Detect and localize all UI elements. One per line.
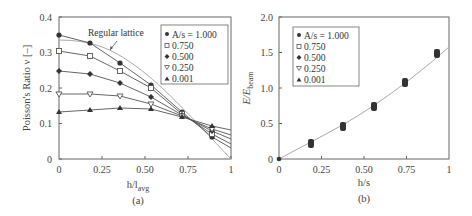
legend-label: 0.500 [172, 52, 194, 62]
legend-circle-icon [165, 32, 169, 36]
y-tick-label: 0.4 [40, 12, 53, 23]
y-tick-label: 0 [47, 154, 52, 165]
x-tick-label: 0 [277, 164, 282, 175]
panel-b: 0 0.5 1.0 1.5 2.0 0 0.25 0.50 0.75 1 E/E… [241, 12, 452, 206]
y-tick-label: 1.5 [261, 47, 274, 58]
y-axis-label-b: E/Ebeam [241, 71, 255, 106]
legend-square-icon [297, 45, 301, 49]
legend-label: 0.750 [172, 41, 194, 51]
caption-a: (a) [132, 195, 144, 207]
legend-label: 0.500 [304, 53, 326, 63]
marker-cluster [277, 157, 282, 162]
series-line-0001 [59, 108, 231, 130]
y-tick-label: 0.1 [40, 118, 53, 129]
legend-a: A/s = 1.000 0.750 0.500 0.250 0.001 [161, 25, 228, 84]
y-tick-label: 2.0 [261, 12, 274, 23]
x-axis-label-b: h/s [358, 177, 370, 188]
legend-label: 0.001 [304, 75, 326, 85]
markers-0250 [56, 92, 215, 132]
x-tick-label: 0.50 [355, 164, 373, 175]
x-tick-label: 1 [447, 164, 452, 175]
regular-lattice-annotation: Regular lattice [88, 28, 144, 38]
y-tick-label: 0 [268, 154, 273, 165]
legend-square-icon [165, 44, 169, 48]
legend-label: 0.001 [172, 74, 194, 84]
y-axis-label-sub: beam [246, 71, 255, 89]
legend-label: 0.750 [304, 42, 326, 52]
x-tick-label: 0.75 [179, 164, 197, 175]
y-tick-label: 0.3 [40, 47, 53, 58]
y-axis-label-a: Poisson's Ratio ν [–] [21, 45, 32, 131]
x-axis-label-a: h/lavg [127, 179, 150, 193]
legend-label: 0.250 [172, 63, 194, 73]
x-tick-label: 0.50 [136, 164, 154, 175]
panel-a: 0 0.1 0.2 0.3 0.4 0 0.25 0.50 0.75 1 Poi… [21, 12, 234, 208]
legend-label: A/s = 1.000 [304, 31, 349, 41]
y-tick-label: 0.2 [40, 83, 53, 94]
figure: 0 0.1 0.2 0.3 0.4 0 0.25 0.50 0.75 1 Poi… [0, 0, 472, 216]
legend-b: A/s = 1.000 0.750 0.500 0.250 0.001 [293, 27, 359, 86]
y-tick-label: 1.0 [261, 83, 274, 94]
x-tick-label: 0.25 [93, 164, 111, 175]
x-tick-label: 0.75 [398, 164, 416, 175]
legend-circle-icon [297, 33, 301, 37]
x-tick-label: 1 [229, 164, 234, 175]
caption-b: (b) [358, 193, 371, 205]
x-tick-label: 0 [57, 164, 62, 175]
series-line-0250 [59, 94, 231, 135]
y-tick-label: 0.5 [261, 118, 274, 129]
x-tick-label: 0.25 [313, 164, 331, 175]
x-axis-label-sub: avg [138, 184, 150, 193]
y-axis-label-main: E/E [241, 88, 252, 105]
legend-label: 0.250 [304, 64, 326, 74]
legend-label: A/s = 1.000 [172, 30, 217, 40]
x-axis-label-main: h/l [127, 179, 138, 190]
